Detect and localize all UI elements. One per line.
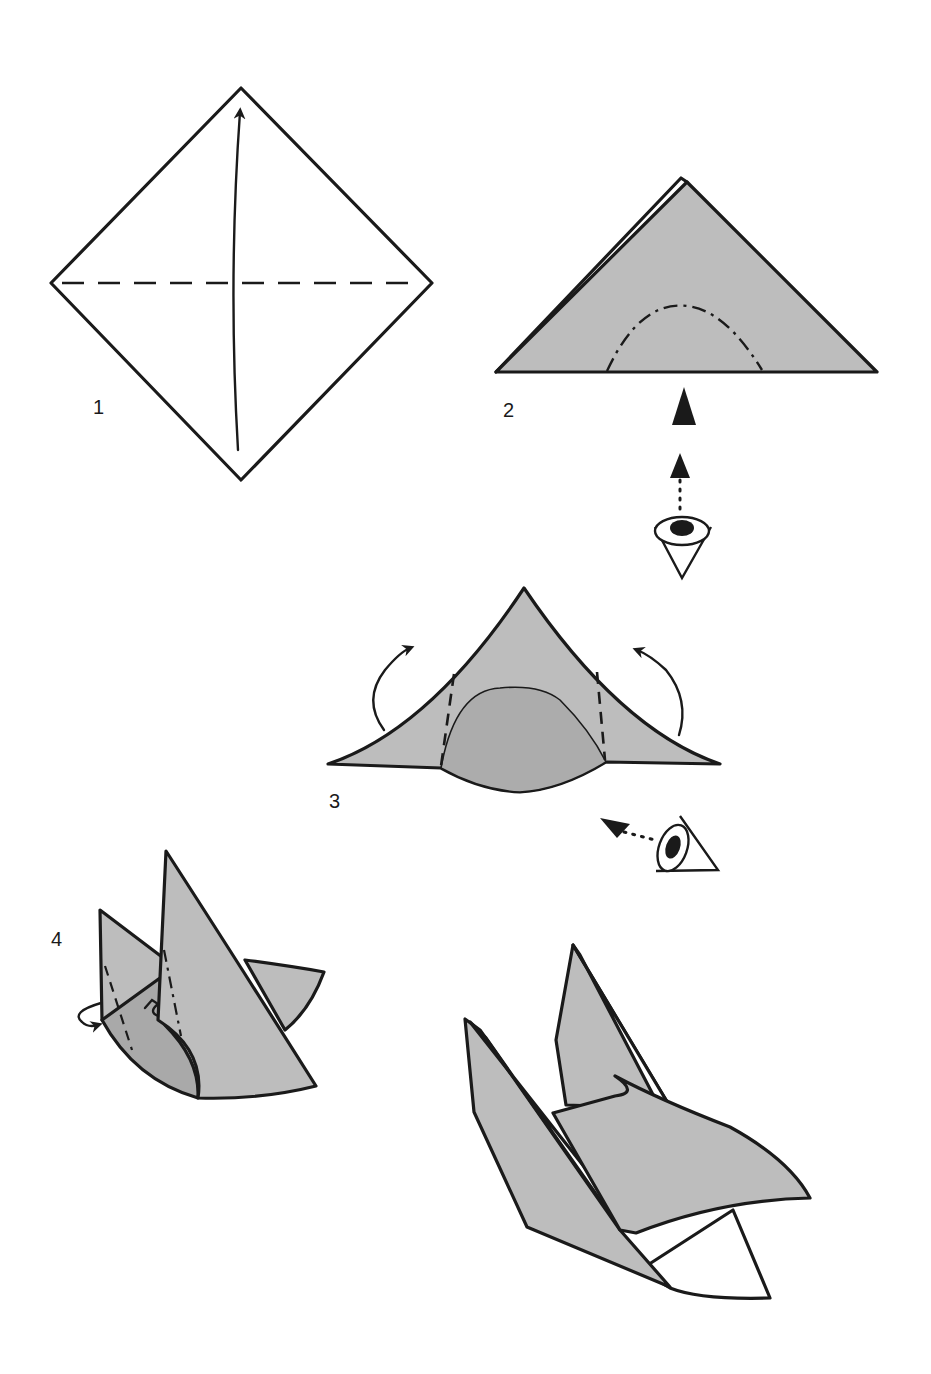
step-number: 3	[329, 790, 340, 812]
folded-triangle	[496, 182, 877, 372]
eye-view-arrowhead	[600, 818, 630, 838]
step-4: 4	[51, 851, 324, 1098]
fold-arrow-left	[373, 648, 410, 730]
origami-diagram: 1 2 3	[0, 0, 931, 1374]
curl-arrow	[79, 1003, 101, 1026]
push-arrow	[672, 387, 696, 425]
dotted-sight-line	[624, 832, 655, 840]
step-1: 1	[51, 88, 432, 480]
step-number: 2	[503, 399, 514, 421]
eye-view-arrowhead	[670, 453, 690, 478]
step-number: 4	[51, 928, 62, 950]
step-number: 1	[93, 396, 104, 418]
eye-view-symbol-side	[600, 816, 718, 875]
step-2: 2	[496, 178, 877, 425]
step-3: 3	[328, 588, 720, 812]
finished-model	[465, 945, 810, 1298]
eye-pupil	[670, 520, 694, 536]
eye-view-symbol	[655, 453, 711, 578]
